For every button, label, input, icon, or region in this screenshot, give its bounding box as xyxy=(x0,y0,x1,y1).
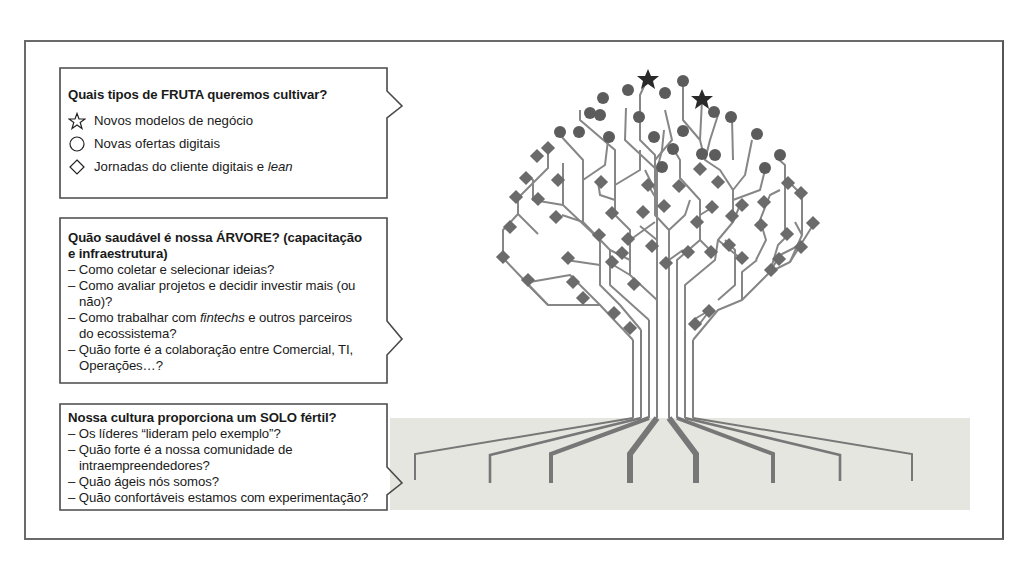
soil-box-title: Nossa cultura proporciona um SOLO fértil… xyxy=(68,410,380,426)
fruit-box-title: Quais tipos de FRUTA queremos cultivar? xyxy=(68,87,380,103)
tree-item-3-suffix: e outros parceiros xyxy=(245,310,352,325)
tree-item-2-cont: não)? xyxy=(68,294,380,310)
soil-question-box: Nossa cultura proporciona um SOLO fértil… xyxy=(60,404,388,510)
tree-item-3-prefix: – Como trabalhar com xyxy=(68,310,200,325)
tree-box-title-line2: e infraestrutura) xyxy=(68,246,380,262)
legend-item-circle: Novas ofertas digitais xyxy=(68,132,380,155)
legend-label: Jornadas do cliente digitais e lean xyxy=(94,159,293,174)
star-icon xyxy=(68,112,86,130)
soil-item-1: – Os líderes “lideram pelo exemplo”? xyxy=(68,426,380,442)
tree-item-3: – Como trabalhar com fintechs e outros p… xyxy=(68,310,380,326)
soil-item-3: – Quão ágeis nós somos? xyxy=(68,474,380,490)
tree-box-title-line1: Quão saudável é nossa ÁRVORE? (capacitaç… xyxy=(68,230,380,246)
legend-item-diamond: Jornadas do cliente digitais e lean xyxy=(68,155,380,178)
legend-label-italic: lean xyxy=(268,159,293,174)
tree-question-box: Quão saudável é nossa ÁRVORE? (capacitaç… xyxy=(60,218,388,383)
tree-item-3-italic: fintechs xyxy=(200,310,245,325)
soil-item-2: – Quão forte é a nossa comunidade de xyxy=(68,442,380,458)
legend-item-star: Novos modelos de negócio xyxy=(68,109,380,132)
diamond-icon xyxy=(68,158,86,176)
legend-label: Novas ofertas digitais xyxy=(94,136,220,151)
tree-item-1: – Como coletar e selecionar ideias? xyxy=(68,262,380,278)
circle-nodes xyxy=(554,75,786,174)
star-nodes xyxy=(637,69,713,109)
soil-item-2-cont: intraempreendedores? xyxy=(68,458,380,474)
legend-label-prefix: Jornadas do cliente digitais e xyxy=(94,159,268,174)
tree-item-3-cont: do ecossistema? xyxy=(68,326,380,342)
tree-item-4-cont: Operações…? xyxy=(68,358,380,374)
tree-item-4: – Quão forte é a colaboração entre Comer… xyxy=(68,342,380,358)
legend-label: Novos modelos de negócio xyxy=(94,113,253,128)
tree-item-2: – Como avaliar projetos e decidir invest… xyxy=(68,278,380,294)
fruit-question-box: Quais tipos de FRUTA queremos cultivar? … xyxy=(60,68,388,198)
soil-item-4: – Quão confortáveis estamos com experime… xyxy=(68,490,380,506)
circle-icon xyxy=(68,135,86,153)
